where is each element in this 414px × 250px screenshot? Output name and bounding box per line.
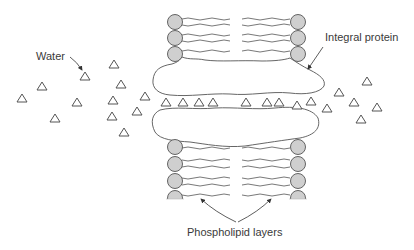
integral-protein-label: Integral protein: [325, 31, 398, 43]
water-molecule-icon: [372, 103, 382, 111]
water-molecule-icon: [356, 115, 366, 123]
lower-phospholipid-layer: [182, 147, 290, 196]
integral-protein-arrow-icon: [308, 47, 323, 69]
water-label: Water: [36, 50, 65, 62]
water-molecule-icon: [194, 98, 204, 106]
water-molecule-icon: [72, 98, 82, 106]
water-molecule-icon: [241, 98, 251, 106]
water-molecule-icon: [17, 94, 27, 102]
phospholipid-arrow-right-icon: [238, 199, 271, 222]
water-molecule-icon: [292, 101, 302, 109]
water-molecule-icon: [306, 97, 316, 105]
water-molecule-icon: [50, 114, 60, 122]
water-molecule-icon: [334, 88, 344, 96]
water-molecule-icon: [80, 72, 90, 80]
water-molecule-icon: [161, 98, 171, 106]
water-molecule-icon: [116, 80, 126, 88]
water-arrow-icon: [70, 57, 82, 70]
water-molecule-icon: [208, 98, 218, 106]
water-molecule-icon: [108, 96, 118, 104]
water-molecule-icon: [349, 98, 359, 106]
water-molecule-icon: [178, 98, 188, 106]
water-molecule-icon: [140, 92, 150, 100]
water-molecule-icon: [274, 98, 284, 106]
lower-phospholipid-heads-partial: [168, 191, 306, 206]
water-molecule-icon: [322, 104, 332, 112]
water-molecule-icon: [119, 128, 129, 136]
integral-protein-upper: [153, 57, 324, 96]
water-molecule-icon: [132, 107, 142, 115]
water-molecule-icon: [109, 60, 119, 68]
water-molecule-icon: [262, 98, 272, 106]
upper-phospholipid-heads: [168, 15, 306, 62]
upper-phospholipid-layer: [182, 18, 290, 52]
water-molecule-icon: [107, 112, 117, 120]
phospholipid-layers-label: Phospholipid layers: [187, 226, 282, 238]
water-molecule-icon: [362, 77, 372, 85]
water-molecule-icon: [37, 82, 47, 90]
phospholipid-arrow-left-icon: [201, 199, 236, 222]
